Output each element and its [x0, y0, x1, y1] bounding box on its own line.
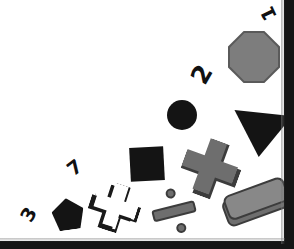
puzzle-scene: 1 2 7 3 — [0, 0, 294, 249]
black-square — [129, 146, 165, 182]
white-cross-front-fill — [89, 180, 142, 233]
white-paper-canvas: 1 2 7 3 — [0, 0, 284, 241]
gray-octagon — [228, 31, 280, 83]
black-circle — [167, 100, 197, 130]
division-dot-bottom — [175, 222, 187, 234]
label-7: 7 — [64, 156, 86, 179]
label-2: 2 — [187, 61, 217, 89]
gray-division-sign — [145, 183, 205, 240]
label-3: 3 — [17, 204, 40, 225]
division-bar — [151, 200, 197, 222]
black-pentagon — [50, 196, 86, 232]
white-plus-cross — [86, 178, 146, 238]
division-dot-top — [165, 187, 177, 199]
label-1: 1 — [257, 3, 280, 23]
